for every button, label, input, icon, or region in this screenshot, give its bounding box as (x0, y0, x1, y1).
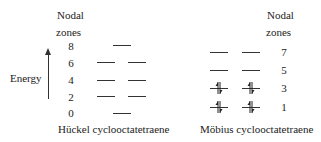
huckel-orbital-level-6b (128, 62, 146, 63)
electron-pair-icon (214, 81, 224, 95)
mobius-nodal-label-7: 7 (279, 46, 289, 58)
mobius-nodal-label-5: 5 (279, 64, 289, 76)
mobius-nodal-label-3: 3 (279, 82, 289, 94)
huckel-orbital-level-6a (97, 62, 115, 63)
huckel-caption: Hückel cyclooctatetraene (58, 123, 169, 135)
huckel-orbital-level-2a (97, 96, 115, 97)
energy-axis-label: Energy (10, 72, 42, 84)
huckel-nodal-label-6: 6 (66, 57, 76, 69)
mobius-orbital-level-5a (210, 70, 228, 71)
mobius-header-zones: zones (266, 26, 291, 38)
huckel-header-nodal: Nodal (57, 9, 84, 21)
mobius-orbital-level-5b (242, 70, 260, 71)
huckel-orbital-level-8 (113, 45, 131, 46)
huckel-nodal-label-0: 0 (66, 107, 76, 119)
huckel-nodal-label-2: 2 (66, 91, 76, 103)
electron-pair-icon (214, 100, 224, 114)
huckel-header-zones: zones (56, 26, 81, 38)
huckel-orbital-level-4b (128, 80, 146, 81)
mobius-header-nodal: Nodal (267, 9, 294, 21)
huckel-orbital-level-4a (97, 80, 115, 81)
huckel-nodal-label-4: 4 (66, 74, 76, 86)
electron-pair-icon (246, 81, 256, 95)
mobius-caption: Möbius cyclooctatetraene (200, 123, 313, 135)
electron-pair-icon (246, 100, 256, 114)
huckel-orbital-level-2b (128, 96, 146, 97)
mobius-orbital-level-7a (210, 52, 228, 53)
huckel-orbital-level-0 (113, 113, 131, 114)
huckel-nodal-label-8: 8 (66, 40, 76, 52)
mobius-orbital-level-7b (242, 52, 260, 53)
mobius-nodal-label-1: 1 (279, 101, 289, 113)
energy-arrow-shaft (48, 54, 49, 99)
